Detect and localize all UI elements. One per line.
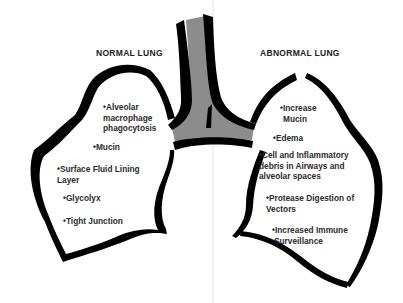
normal-item-tight-junction: •Tight Junction <box>63 216 123 227</box>
normal-item-alveolar-macrophage: •Alveolar macrophage phagocytosis <box>103 102 156 134</box>
abnormal-item-immune-surveillance: •Increased Immune Surveillance <box>272 225 348 246</box>
normal-item-glycolyx: •Glycolyx <box>63 193 101 204</box>
normal-item-surface-fluid: •Surface Fluid Lining Layer <box>57 164 140 185</box>
lung-comparison-diagram: NORMAL LUNG •Alveolar macrophage phagocy… <box>0 0 403 303</box>
abnormal-item-cell-debris: •Cell and Inflammatory debris in Airways… <box>259 150 349 182</box>
abnormal-item-protease-digestion: •Protease Digestion of Vectors <box>266 193 354 214</box>
abnormal-lung-title: ABNORMAL LUNG <box>260 48 340 58</box>
normal-item-mucin: •Mucin <box>93 142 120 153</box>
normal-lung-title: NORMAL LUNG <box>96 48 163 58</box>
abnormal-item-edema: •Edema <box>273 133 303 144</box>
abnormal-item-increase-mucin: •Increase Mucin <box>280 103 317 124</box>
